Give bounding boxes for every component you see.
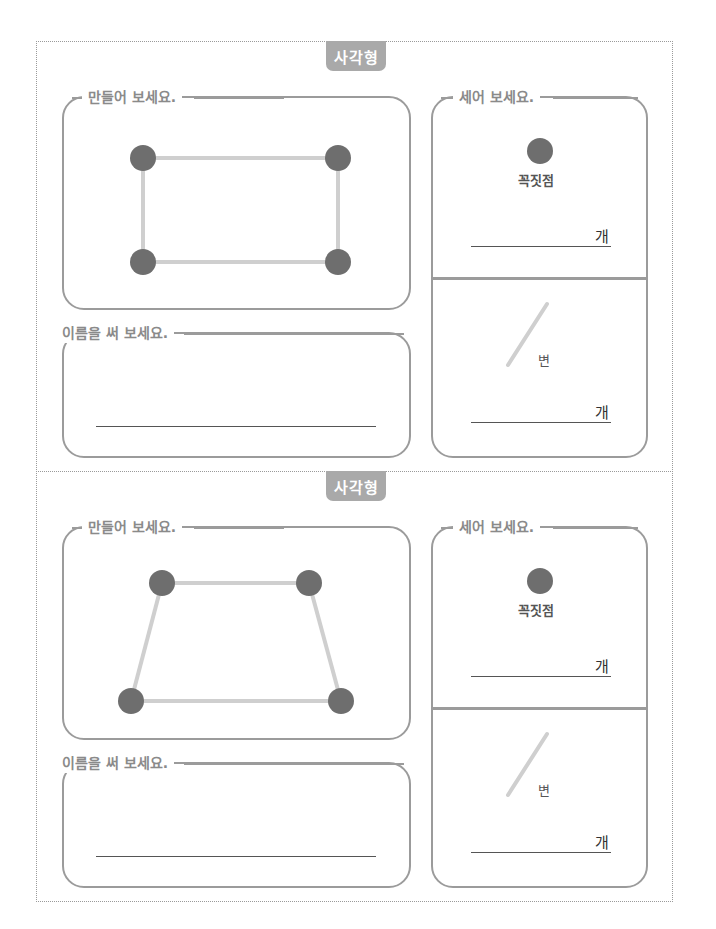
count-panel: 세어 보세요. 꼭짓점 개 변 개 (431, 526, 648, 888)
edge-answer-line[interactable] (471, 422, 611, 423)
name-label: 이름을 써 보세요. (62, 753, 174, 773)
vertex-dot[interactable] (130, 145, 156, 171)
vertex-dot[interactable] (325, 249, 351, 275)
shape-card-1: 사각형 만들어 보세요. 이름을 써 보세요. 세어 보세요. 꼭짓점 개 (0, 41, 716, 471)
label-rule (184, 763, 404, 766)
vertex-dot[interactable] (296, 570, 322, 596)
trapezoid-shape (64, 528, 413, 742)
vertex-dot[interactable] (149, 570, 175, 596)
edge-caption: 변 (538, 350, 550, 369)
label-rule (184, 333, 404, 336)
edge-caption: 변 (538, 780, 550, 799)
name-answer-line[interactable] (96, 426, 376, 427)
edge-icon (433, 98, 650, 460)
edge-unit: 개 (595, 831, 609, 852)
count-panel: 세어 보세요. 꼭짓점 개 변 개 (431, 96, 648, 458)
make-shape-panel: 만들어 보세요. (62, 96, 411, 310)
vertex-dot[interactable] (328, 688, 354, 714)
vertex-dot[interactable] (118, 688, 144, 714)
write-name-panel: 이름을 써 보세요. (62, 762, 411, 888)
shape-title-tab: 사각형 (326, 471, 386, 501)
name-label: 이름을 써 보세요. (62, 323, 174, 343)
vertex-dot[interactable] (325, 145, 351, 171)
edge-unit: 개 (595, 401, 609, 422)
edge (131, 583, 162, 701)
make-shape-panel: 만들어 보세요. (62, 526, 411, 740)
name-answer-line[interactable] (96, 856, 376, 857)
edge-answer-line[interactable] (471, 852, 611, 853)
vertex-dot[interactable] (130, 249, 156, 275)
write-name-panel: 이름을 써 보세요. (62, 332, 411, 458)
edge (309, 583, 341, 701)
shape-title-tab: 사각형 (326, 41, 386, 71)
shape-card-2: 사각형 만들어 보세요. 이름을 써 보세요. 세어 보세요. 꼭짓점 개 (0, 471, 716, 901)
edge-icon (433, 528, 650, 890)
rectangle-shape (64, 98, 413, 312)
